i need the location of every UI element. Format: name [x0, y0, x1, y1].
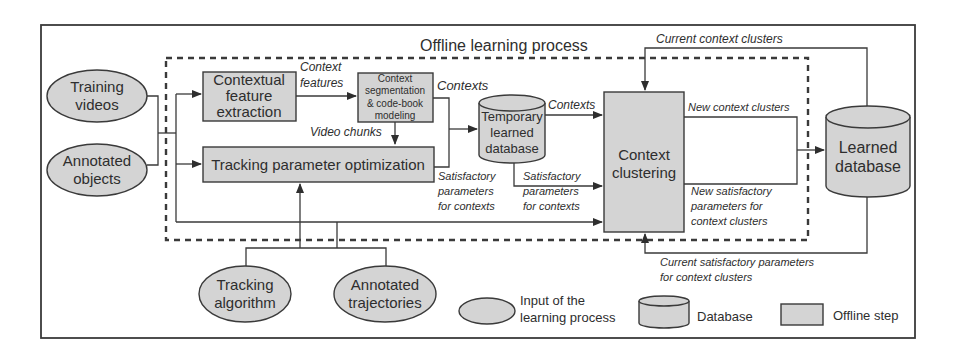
temp-db-line3: database — [485, 141, 539, 156]
step2-line1: Context — [378, 73, 413, 84]
step2-line2: segmentation — [365, 85, 425, 96]
input-training-videos: Training videos — [47, 70, 147, 122]
annotated-objects-line2: objects — [73, 170, 121, 187]
offline-learning-diagram: Offline learning process Training videos… — [0, 0, 960, 359]
tracking-algorithm-line1: Tracking — [217, 276, 274, 293]
annotated-objects-line1: Annotated — [63, 152, 131, 169]
input-annotated-trajectories: Annotated trajectories — [334, 266, 436, 322]
step-contextual-feature-extraction: Contextual feature extraction — [203, 71, 296, 121]
step-tracking-parameter-optimization: Tracking parameter optimization — [203, 147, 434, 182]
step4-line1: Context — [618, 146, 671, 163]
step-context-segmentation: Context segmentation & code-book modelin… — [358, 73, 433, 122]
label-current-context-clusters: Current context clusters — [656, 32, 783, 46]
step4-line2: clustering — [612, 164, 676, 181]
step2-line4: modeling — [375, 110, 416, 121]
label-satisfactory-2b: parameters — [522, 185, 579, 197]
database-temporary-learned: Temporary learned database — [479, 95, 545, 163]
tracking-algorithm-line2: algorithm — [214, 294, 276, 311]
label-satisfactory-1c: for contexts — [438, 200, 495, 212]
diagram-title: Offline learning process — [420, 37, 588, 54]
annotated-trajectories-line1: Annotated — [351, 276, 419, 293]
label-current-satisfactory-2: for context clusters — [660, 271, 753, 283]
annotated-trajectories-line2: trajectories — [348, 294, 421, 311]
learned-db-line2: database — [835, 158, 901, 175]
legend-step-label: Offline step — [833, 308, 899, 323]
training-videos-line1: Training — [70, 78, 124, 95]
temp-db-line1: Temporary — [481, 109, 543, 124]
training-videos-line2: videos — [75, 96, 118, 113]
legend-input-label-1: Input of the — [520, 293, 585, 308]
label-current-satisfactory-1: Current satisfactory parameters — [660, 256, 815, 268]
step1-line3: extraction — [216, 103, 281, 120]
label-new-satisfactory-2: parameters for — [690, 200, 764, 212]
label-contexts-2: Contexts — [548, 98, 595, 112]
label-new-satisfactory-3: context clusters — [691, 215, 768, 227]
legend-input-label-2: learning process — [520, 310, 616, 325]
label-new-context-clusters: New context clusters — [688, 101, 790, 113]
step-context-clustering: Context clustering — [604, 92, 684, 232]
label-satisfactory-1b: parameters — [437, 185, 494, 197]
label-contexts-1: Contexts — [437, 78, 489, 93]
legend-database-label: Database — [697, 309, 753, 324]
legend-database-icon — [639, 296, 689, 328]
legend-input-icon — [459, 298, 515, 324]
step1-line1: Contextual — [213, 71, 285, 88]
step3-label: Tracking parameter optimization — [211, 156, 425, 173]
learned-db-line1: Learned — [839, 139, 898, 156]
input-tracking-algorithm: Tracking algorithm — [199, 266, 291, 322]
label-satisfactory-1a: Satisfactory — [438, 170, 497, 182]
label-context-features-1: Context — [300, 60, 342, 74]
label-video-chunks: Video chunks — [310, 125, 382, 139]
label-satisfactory-2a: Satisfactory — [523, 170, 582, 182]
temp-db-line2: learned — [490, 125, 533, 140]
label-satisfactory-2c: for contexts — [523, 200, 580, 212]
database-learned: Learned database — [826, 106, 910, 197]
label-context-features-2: features — [300, 76, 343, 90]
step1-line2: feature — [226, 87, 273, 104]
step2-line3: & code-book — [367, 98, 424, 109]
label-new-satisfactory-1: New satisfactory — [691, 185, 773, 197]
input-annotated-objects: Annotated objects — [47, 144, 147, 196]
legend-step-icon — [781, 304, 823, 325]
